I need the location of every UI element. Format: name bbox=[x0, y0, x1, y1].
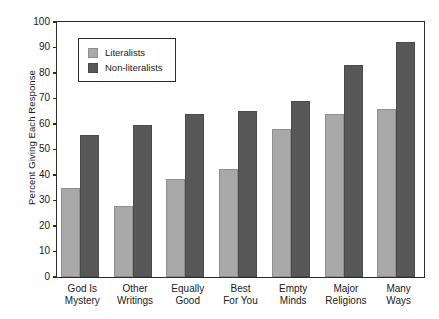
bar-group-bars bbox=[321, 22, 374, 277]
y-axis-tick-label: 30 bbox=[39, 194, 50, 205]
legend-item-literalists: Literalists bbox=[88, 45, 163, 60]
x-axis-label: MajorReligions bbox=[320, 283, 373, 308]
x-axis-label: BestFor You bbox=[214, 283, 267, 308]
x-axis-label-line: Best bbox=[214, 283, 267, 295]
legend-item-non-literalists: Non-literalists bbox=[88, 60, 163, 75]
bar-empty-minds-literalists bbox=[272, 129, 291, 277]
bar-best-for-you-non-literalists bbox=[238, 111, 257, 277]
y-axis-tick-label: 10 bbox=[39, 245, 50, 256]
y-axis-tick-label: 40 bbox=[39, 169, 50, 180]
y-axis-tick-label: 20 bbox=[39, 220, 50, 231]
bar-best-for-you-literalists bbox=[219, 169, 238, 277]
x-axis-label-line: Ways bbox=[372, 295, 425, 307]
y-axis-tick-label: 90 bbox=[39, 41, 50, 52]
x-axis-label-line: Religions bbox=[320, 295, 373, 307]
x-axis-label-line: Minds bbox=[267, 295, 320, 307]
x-axis-label-line: For You bbox=[214, 295, 267, 307]
bar-group-bars bbox=[373, 22, 426, 277]
bar-major-religions-non-literalists bbox=[344, 65, 363, 277]
legend-swatch-icon-non-literalists bbox=[88, 63, 98, 73]
bar-major-religions-literalists bbox=[325, 114, 344, 277]
x-axis-label: ManyWays bbox=[372, 283, 425, 308]
y-axis-tick-label: 60 bbox=[39, 118, 50, 129]
bar-other-writings-literalists bbox=[114, 206, 133, 277]
x-axis-label-line: Other bbox=[109, 283, 162, 295]
bar-group-bars bbox=[268, 22, 321, 277]
x-axis-label-line: Empty bbox=[267, 283, 320, 295]
bar-god-is-mystery-literalists bbox=[61, 188, 80, 277]
bar-many-ways-non-literalists bbox=[396, 42, 415, 277]
y-axis-tick-label: 80 bbox=[39, 67, 50, 78]
bar-many-ways-literalists bbox=[377, 109, 396, 277]
bar-equally-good-non-literalists bbox=[185, 114, 204, 277]
y-axis-tick-label: 70 bbox=[39, 92, 50, 103]
y-axis-tick-label: 0 bbox=[44, 271, 50, 282]
bar-equally-good-literalists bbox=[166, 179, 185, 277]
bar-god-is-mystery-non-literalists bbox=[80, 135, 99, 277]
legend-label-literalists: Literalists bbox=[105, 47, 145, 58]
x-axis-label-line: Good bbox=[161, 295, 214, 307]
x-axis-label: EmptyMinds bbox=[267, 283, 320, 308]
x-axis-label-line: Mystery bbox=[56, 295, 109, 307]
x-axis-label: OtherWritings bbox=[109, 283, 162, 308]
y-axis-tick-label: 100 bbox=[33, 16, 50, 27]
bar-group bbox=[215, 22, 268, 277]
legend-swatch-icon-literalists bbox=[88, 48, 98, 58]
legend-label-non-literalists: Non-literalists bbox=[105, 62, 163, 73]
bar-group-bars bbox=[215, 22, 268, 277]
bar-group bbox=[268, 22, 321, 277]
chart-legend: Literalists Non-literalists bbox=[78, 38, 176, 82]
x-axis-label-line: Major bbox=[320, 283, 373, 295]
y-axis-tick-label: 50 bbox=[39, 143, 50, 154]
x-axis-label-line: Many bbox=[372, 283, 425, 295]
bar-chart: Percent Giving Each Response 01020304050… bbox=[0, 0, 439, 319]
x-axis-label-line: God Is bbox=[56, 283, 109, 295]
bar-group bbox=[321, 22, 374, 277]
bar-group bbox=[373, 22, 426, 277]
x-axis-label: God IsMystery bbox=[56, 283, 109, 308]
bar-other-writings-non-literalists bbox=[133, 125, 152, 277]
x-axis-label-line: Writings bbox=[109, 295, 162, 307]
bar-empty-minds-non-literalists bbox=[291, 101, 310, 277]
x-axis-label-line: Equally bbox=[161, 283, 214, 295]
y-axis-title: Percent Giving Each Response bbox=[26, 33, 37, 243]
x-axis-label: EquallyGood bbox=[161, 283, 214, 308]
